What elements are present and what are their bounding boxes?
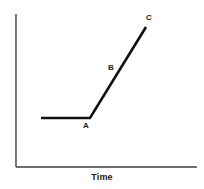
annotation-label-a: A — [83, 122, 89, 130]
x-axis-title: Time — [0, 173, 204, 182]
data-line-curve — [41, 27, 146, 118]
data-series-group — [41, 27, 146, 118]
plot-canvas — [0, 0, 204, 189]
line-chart-figure: A B C Time — [0, 0, 204, 189]
annotation-label-b: B — [108, 64, 114, 72]
annotation-label-c: C — [146, 14, 152, 22]
